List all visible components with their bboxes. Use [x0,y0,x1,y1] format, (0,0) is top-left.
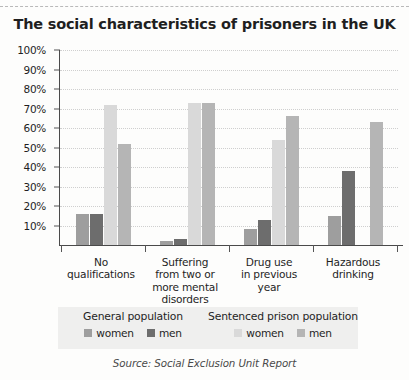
legend-item: women [84,327,134,339]
y-axis-tick-label: 40% [24,161,46,173]
legend-item: men [297,327,332,339]
category-label-line: Suffering [143,256,227,268]
y-axis-tick-label: 100% [17,44,46,56]
x-axis-category-label: Hazardousdrinking [311,256,395,281]
y-axis-tick-label: 60% [24,122,46,134]
bar [90,214,103,245]
y-axis-tick-label: 20% [24,200,46,212]
x-axis-tick-mark [313,245,314,252]
category-label-line: drinking [311,268,395,280]
y-axis-tick-label: 50% [24,142,46,154]
legend-group: Sentenced prison populationwomenmen [208,310,358,339]
bar [104,105,117,245]
bar [328,216,341,245]
legend-swatch-icon [234,329,242,337]
bar [202,103,215,245]
y-axis-tick-label: 30% [24,181,46,193]
category-label-line: more mental [143,281,227,293]
chart-title: The social characteristics of prisoners … [0,16,409,32]
bar [118,144,131,245]
legend-swatch-icon [84,329,92,337]
y-axis: 100%90%80%70%60%50%40%30%20%10% [0,50,54,246]
bar [342,171,355,245]
chart-figure: The social characteristics of prisoners … [0,0,409,380]
bar [244,229,257,245]
bar-group [61,50,145,245]
category-label-line: Hazardous [311,256,395,268]
chart-legend: General populationwomenmenSentenced pris… [58,307,358,349]
plot-region: 100%90%80%70%60%50%40%30%20%10% [0,50,409,246]
bar-group [229,50,313,245]
legend-label: women [96,327,134,339]
bar-group [145,50,229,245]
bar [258,220,271,245]
category-label-line: Drug use [227,256,311,268]
x-axis-category-labels: NoqualificationsSufferingfrom two ormore… [59,256,403,312]
bar [174,239,187,245]
bar [286,116,299,245]
x-axis-tick-mark [61,245,62,252]
x-axis-tick-mark [229,245,230,252]
category-label-line: No [59,256,143,268]
legend-group: General populationwomenmen [58,310,208,339]
x-axis-tick-mark [145,245,146,252]
x-axis-tick-mark [397,245,398,252]
legend-items: womenmen [58,327,208,339]
category-label-line: qualifications [59,268,143,280]
x-axis-line [59,245,403,246]
y-axis-line [59,50,60,246]
legend-label: men [309,327,332,339]
y-axis-tick-label: 70% [24,103,46,115]
bar-group [313,50,397,245]
legend-label: women [246,327,284,339]
category-label-line: year [227,281,311,293]
x-axis-category-label: Noqualifications [59,256,143,281]
x-axis-category-label: Sufferingfrom two ormore mentaldisorders [143,256,227,305]
legend-swatch-icon [297,329,305,337]
top-divider [0,6,409,7]
bar [160,241,173,245]
y-axis-tick-label: 10% [24,220,46,232]
source-note: Source: Social Exclusion Unit Report [0,357,409,369]
bar [272,140,285,245]
y-axis-tick-label: 90% [24,64,46,76]
legend-swatch-icon [147,329,155,337]
bars-container [61,50,397,245]
x-axis-category-label: Drug usein previousyear [227,256,311,293]
bar [370,122,383,245]
legend-group-title: General population [58,310,208,323]
bar [188,103,201,245]
y-axis-tick-label: 80% [24,83,46,95]
legend-item: men [147,327,182,339]
legend-group-title: Sentenced prison population [208,310,358,323]
category-label-line: from two or [143,268,227,280]
legend-items: womenmen [208,327,358,339]
legend-label: men [159,327,182,339]
category-label-line: disorders [143,293,227,305]
category-label-line: in previous [227,268,311,280]
legend-item: women [234,327,284,339]
bar [76,214,89,245]
